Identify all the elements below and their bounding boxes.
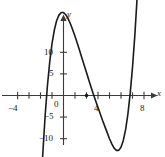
x-tick-label-neg4: −4 [8,104,18,113]
x-tick-label-eight: 8 [140,104,145,113]
y-tick-label-neg10: −10 [39,134,53,143]
y-tick-label-five: 5 [49,69,54,78]
graph-figure: −4 0 4 8 10 5 −5 −10 y x [0,0,165,157]
cubic-curve [38,0,144,157]
x-axis-group [2,92,158,99]
x-axis-label: x [157,89,161,98]
y-tick-label-ten: 10 [44,48,53,57]
y-axis-group [60,15,67,146]
x-tick-label-zero: 0 [54,100,59,109]
marked-point [85,94,89,98]
x-tick-label-four: 4 [94,104,99,113]
y-axis-label: y [67,10,71,19]
y-tick-label-neg5: −5 [44,112,54,121]
cubic-graph-plot [0,0,165,157]
